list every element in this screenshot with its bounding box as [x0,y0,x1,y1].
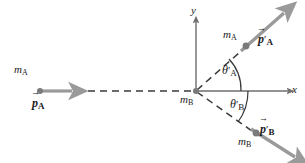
angle-subscript: B [238,102,244,112]
mass-subscript: B [246,140,251,149]
particle-dot-target-b [193,88,199,94]
mass-subscript: A [231,33,237,42]
y-axis-label: y [191,5,196,16]
particle-dot-outgoing-b [253,130,260,137]
momentum-symbol: p [260,123,266,135]
angle-label-theta-b-prime: θ′B [230,98,244,112]
momentum-label-p-a: pA [32,97,45,111]
mass-symbol: m [180,93,188,105]
momentum-symbol: p [258,33,264,45]
mass-label-incoming-a: mA [14,64,28,77]
angle-subscript: A [230,68,237,78]
angle-label-theta-a-prime: θ′A [222,64,237,78]
mass-label-outgoing-b: mB [238,136,251,149]
collision-vector-diagram: y x mA mB mA mB pA p′A p′B θ′A θ′B [0,0,305,163]
mass-label-target-b: mB [180,94,193,107]
mass-symbol: m [238,135,246,147]
dashed-outgoing-b-path [197,92,259,136]
mass-symbol: m [223,28,231,40]
mass-subscript: A [22,68,28,77]
particle-dot-outgoing-a [243,43,250,50]
x-axis-label: x [292,84,297,95]
momentum-symbol: p [32,97,38,109]
mass-symbol: m [14,63,22,75]
momentum-subscript: A [266,37,273,47]
mass-label-outgoing-a: mA [223,29,237,42]
momentum-subscript: A [38,101,45,111]
momentum-label-p-b-prime: p′B [260,123,274,137]
mass-subscript: B [188,98,193,107]
momentum-label-p-a-prime: p′A [258,33,273,47]
momentum-subscript: B [268,127,274,137]
